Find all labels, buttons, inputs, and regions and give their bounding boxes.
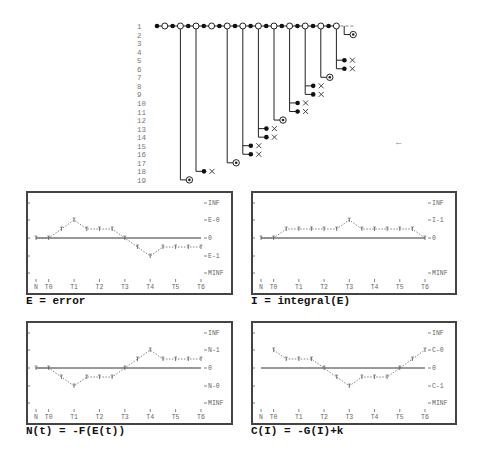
y-level-label: INF — [208, 200, 220, 207]
x-tick-label: T0 — [45, 414, 53, 421]
y-level-label: 0 — [208, 235, 212, 242]
time-point-icon — [186, 24, 191, 29]
x-tick-label: T1 — [295, 414, 303, 421]
time-point-icon — [311, 24, 316, 29]
time-point-icon — [155, 24, 160, 29]
y-level-label: MINF — [432, 400, 448, 407]
time-point-icon — [217, 24, 222, 29]
inconsistent-x-icon — [303, 109, 308, 114]
row-label: 11 — [137, 109, 147, 117]
y-level-label: N-1 — [208, 347, 220, 354]
row-label: 6 — [137, 66, 142, 74]
y-level-label: 0 — [208, 365, 212, 372]
row-label: 5 — [137, 57, 142, 65]
y-level-label: E-0 — [208, 217, 220, 224]
x-tick-label: T1 — [70, 414, 78, 421]
interval-icon — [333, 23, 339, 29]
inconsistent-x-icon — [350, 58, 355, 63]
state-dot-icon — [249, 143, 254, 148]
interval-icon — [302, 23, 308, 29]
x-tick-label: T1 — [295, 284, 303, 291]
row-label: 8 — [137, 83, 142, 91]
x-tick-label: T3 — [121, 414, 129, 421]
y-level-label: C-0 — [432, 347, 444, 354]
x-tick-label: T6 — [197, 284, 205, 291]
x-tick-label: T2 — [320, 414, 328, 421]
x-tick-label: T4 — [371, 284, 379, 291]
row-label: 9 — [137, 91, 142, 99]
x-tick-label: N — [34, 284, 38, 291]
inconsistent-x-icon — [319, 92, 324, 97]
interval-icon — [255, 23, 261, 29]
interval-icon — [240, 23, 246, 29]
x-tick-label: T1 — [70, 284, 78, 291]
state-dot-icon — [342, 66, 347, 71]
row-label: 18 — [137, 168, 146, 176]
y-level-label: MINF — [208, 400, 224, 407]
y-level-label: MINF — [432, 270, 448, 277]
time-point-icon — [233, 24, 238, 29]
x-tick-label: T4 — [146, 284, 154, 291]
chart-n-of-t: INFN-10N-0MINFNT0T1T2T3T4T5T6 — [26, 321, 233, 425]
y-level-label: MINF — [208, 270, 224, 277]
x-tick-label: T5 — [172, 284, 180, 291]
interval-icon — [177, 23, 183, 29]
inconsistent-x-icon — [210, 169, 215, 174]
x-tick-label: T5 — [172, 414, 180, 421]
inconsistent-x-icon — [303, 100, 308, 105]
state-dot-icon — [264, 126, 269, 131]
caption-error: E = error — [26, 295, 85, 307]
chart-error: INFE-00E-1MINFNT0T1T2T3T4T5T6 — [26, 191, 233, 295]
time-point-icon — [280, 24, 285, 29]
state-dot-icon — [202, 169, 207, 174]
y-level-label: INF — [432, 330, 444, 337]
inconsistent-x-icon — [272, 135, 277, 140]
interval-icon — [209, 23, 215, 29]
inconsistent-x-icon — [256, 152, 261, 157]
x-tick-label: N — [34, 414, 38, 421]
row-label: 10 — [137, 100, 147, 108]
x-tick-label: T2 — [96, 284, 104, 291]
x-tick-label: T6 — [421, 284, 429, 291]
row-label: 12 — [137, 117, 146, 125]
x-tick-label: T5 — [396, 414, 404, 421]
state-dot-icon — [295, 101, 300, 106]
time-point-icon — [295, 24, 300, 29]
caption-n-of-t: N(t) = -F(E(t)) — [26, 425, 125, 437]
row-label: 4 — [137, 49, 142, 57]
inconsistent-x-icon — [319, 83, 324, 88]
interval-icon — [271, 23, 277, 29]
interval-icon — [287, 23, 293, 29]
x-tick-label: T0 — [270, 414, 278, 421]
y-level-label: INF — [208, 330, 220, 337]
x-tick-label: T4 — [146, 414, 154, 421]
row-label: 14 — [137, 134, 147, 142]
row-label: 15 — [137, 143, 147, 151]
qualitative-behavior-tree: 12345678910111213141516171819 — [0, 0, 481, 190]
row-label: 3 — [137, 40, 142, 48]
y-level-label: I-1 — [432, 217, 444, 224]
interval-icon — [224, 23, 230, 29]
inconsistent-x-icon — [272, 126, 277, 131]
row-label: 17 — [137, 160, 146, 168]
state-dot-icon — [264, 135, 269, 140]
y-level-label: 0 — [432, 235, 436, 242]
chart-c-of-i: INFC-00C-1MINFNT0T1T2T3T4T5T6 — [251, 321, 457, 425]
row-label: 19 — [137, 177, 146, 185]
y-level-label: N-0 — [208, 383, 220, 390]
interval-icon — [162, 23, 168, 29]
x-tick-label: T6 — [421, 414, 429, 421]
state-dot-icon — [342, 58, 347, 63]
interval-icon — [318, 23, 324, 29]
x-tick-label: T2 — [320, 284, 328, 291]
time-point-icon — [202, 24, 207, 29]
left-arrow-icon: ← — [396, 138, 401, 148]
x-tick-label: T0 — [45, 284, 53, 291]
y-level-label: INF — [432, 200, 444, 207]
row-label: 16 — [137, 151, 147, 159]
caption-integral: I = integral(E) — [251, 295, 350, 307]
x-tick-label: T3 — [345, 414, 353, 421]
time-point-icon — [326, 24, 331, 29]
x-tick-label: T4 — [371, 414, 379, 421]
inconsistent-x-icon — [350, 66, 355, 71]
